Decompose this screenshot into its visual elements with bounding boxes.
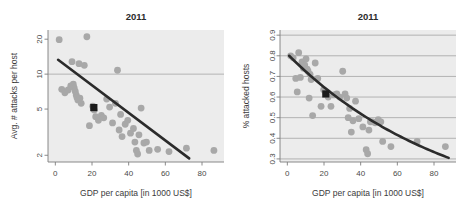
x-axis-title: GDP per capita [in 1000 US$] xyxy=(312,188,424,198)
scatter-point xyxy=(136,131,143,138)
scatter-point xyxy=(78,100,85,107)
scatter-point xyxy=(119,133,126,140)
y-tick-label: 0.9 xyxy=(268,29,277,41)
scatter-point xyxy=(350,117,357,124)
highlighted-data-point xyxy=(90,104,97,111)
scatter-point xyxy=(124,117,131,124)
scatter-point xyxy=(100,114,107,121)
scatter-point xyxy=(297,74,304,81)
y-tick-label: 0.5 xyxy=(268,112,277,124)
x-tick-label: 40 xyxy=(124,169,133,178)
y-tick-label: 2 xyxy=(36,152,45,157)
scatter-point xyxy=(116,127,123,134)
y-axis-title: Avg. # attacks per host xyxy=(9,52,19,139)
scatter-point xyxy=(359,124,366,131)
scatter-point xyxy=(339,68,346,75)
panel-title: 2011 xyxy=(358,11,379,22)
scatter-point xyxy=(86,122,93,129)
x-tick-label: 20 xyxy=(88,169,97,178)
scatter-point xyxy=(343,95,350,102)
scatter-point xyxy=(143,139,150,146)
y-tick-label: 0.7 xyxy=(268,70,277,82)
scatter-point xyxy=(132,139,139,146)
y-tick-label: 0.3 xyxy=(268,153,277,165)
scatter-point xyxy=(138,105,145,112)
x-tick-label: 20 xyxy=(320,169,329,178)
y-tick-label: 5 xyxy=(36,106,45,111)
scatter-point xyxy=(348,129,355,136)
scatter-point xyxy=(146,147,153,154)
chart-panel-left: 0204060802510202011GDP per capita [in 10… xyxy=(0,0,232,219)
scatter-point xyxy=(117,111,124,118)
scatter-point xyxy=(134,151,141,158)
scatter-point xyxy=(355,115,362,122)
scatter-point xyxy=(211,147,218,154)
scatter-point xyxy=(109,120,116,127)
scatter-point xyxy=(83,33,90,40)
scatter-point xyxy=(130,125,137,132)
panel-title: 2011 xyxy=(126,11,147,22)
scatter-point xyxy=(295,49,302,56)
y-tick-label: 0.6 xyxy=(268,91,277,103)
scatter-point xyxy=(183,145,190,152)
scatter-point xyxy=(154,146,161,153)
scatter-point xyxy=(364,150,371,157)
scatter-point xyxy=(309,112,316,119)
chart-svg-right: 0204060800.30.40.50.60.70.80.92011GDP pe… xyxy=(232,0,464,219)
x-tick-label: 60 xyxy=(161,169,170,178)
x-tick-label: 80 xyxy=(198,169,207,178)
scatter-point xyxy=(303,55,310,62)
scatter-point xyxy=(166,148,173,155)
highlighted-data-point xyxy=(322,90,329,97)
scatter-point xyxy=(379,138,386,145)
scatter-point xyxy=(312,60,319,67)
x-tick-label: 0 xyxy=(53,169,58,178)
scatter-point xyxy=(81,62,88,69)
scatter-point xyxy=(318,103,325,110)
scatter-point xyxy=(328,103,335,110)
scatter-point xyxy=(69,58,76,65)
y-tick-label: 10 xyxy=(36,69,45,78)
scatter-point xyxy=(56,36,63,43)
scatter-point xyxy=(442,143,449,150)
scatter-point xyxy=(352,98,359,105)
x-tick-label: 0 xyxy=(285,169,290,178)
y-tick-label: 0.4 xyxy=(268,132,277,144)
x-tick-label: 60 xyxy=(393,169,402,178)
chart-panel-right: 0204060800.30.40.50.60.70.80.92011GDP pe… xyxy=(232,0,464,219)
x-tick-label: 80 xyxy=(430,169,439,178)
scatter-point xyxy=(114,67,121,74)
x-axis-title: GDP per capita [in 1000 US$] xyxy=(80,188,192,198)
chart-svg-left: 0204060802510202011GDP per capita [in 10… xyxy=(0,0,232,219)
y-axis-title: % attacked hosts xyxy=(241,64,251,129)
y-tick-label: 0.8 xyxy=(268,50,277,62)
scatter-point xyxy=(366,127,373,134)
scatter-point xyxy=(294,88,301,95)
scatter-point xyxy=(306,95,313,102)
scatter-point xyxy=(106,104,113,111)
scatter-point xyxy=(388,143,395,150)
x-tick-label: 40 xyxy=(356,169,365,178)
y-tick-label: 20 xyxy=(36,34,45,43)
plot-area-background xyxy=(280,30,456,162)
scatter-figure-pair: 0204060802510202011GDP per capita [in 10… xyxy=(0,0,464,219)
